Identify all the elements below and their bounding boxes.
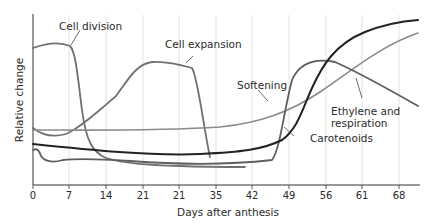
series-cell-expansion	[33, 62, 210, 157]
tick-label: 7	[66, 190, 72, 201]
fruit-development-chart: 0 7 14 21 21 35 42 49 56 61 68 Days afte…	[0, 0, 433, 224]
tick-label: 61	[356, 190, 369, 201]
tick-label: 21	[137, 190, 150, 201]
label-cell-expansion: Cell expansion	[165, 38, 242, 50]
tick-label: 56	[320, 190, 333, 201]
x-tick-labels: 0 7 14 21 21 35 42 49 56 61 68	[30, 190, 406, 201]
x-axis-label: Days after anthesis	[177, 206, 279, 218]
label-ethylene-line2: respiration	[331, 117, 387, 129]
chart-svg: 0 7 14 21 21 35 42 49 56 61 68 Days afte…	[0, 0, 433, 224]
tick-label: 49	[283, 190, 296, 201]
tick-label: 42	[246, 190, 259, 201]
label-cell-division: Cell division	[59, 20, 122, 32]
y-axis-label: Relative change	[13, 58, 25, 142]
x-ticks	[33, 185, 399, 189]
tick-label: 35	[210, 190, 223, 201]
tick-label: 0	[30, 190, 36, 201]
tick-label: 21	[173, 190, 186, 201]
tick-label: 68	[393, 190, 406, 201]
label-ethylene-line1: Ethylene and	[331, 105, 400, 117]
label-softening: Softening	[237, 79, 287, 91]
label-carotenoids: Carotenoids	[310, 132, 373, 144]
tick-label: 14	[100, 190, 113, 201]
series-cell-division	[33, 43, 245, 167]
